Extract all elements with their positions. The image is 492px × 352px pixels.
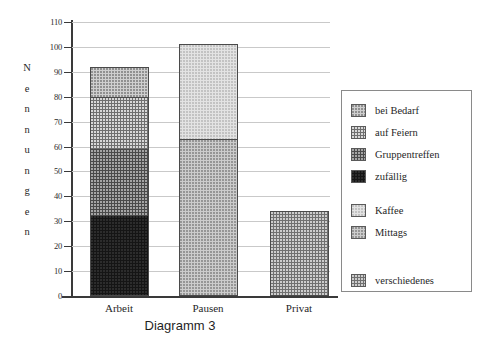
- legend-swatch-kaffee: [351, 204, 366, 217]
- legend-item: zufällig: [351, 168, 407, 184]
- legend-item: verschiedenes: [351, 272, 434, 288]
- bar-segment-gruppentreffen: [90, 149, 149, 215]
- legend-label: bei Bedarf: [375, 105, 419, 116]
- chart-title: Diagramm 3: [0, 318, 360, 333]
- y-tick-label: 60: [54, 142, 62, 152]
- chart-page: Nennungen 1101009080706050403020100 Arbe…: [0, 0, 492, 352]
- y-tick-label: 90: [54, 67, 62, 77]
- legend-label: Gruppentreffen: [375, 149, 440, 160]
- bar-segment-kaffee: [179, 44, 238, 139]
- y-tick-label: 70: [54, 117, 62, 127]
- bar-segment-zuf-llig: [90, 215, 149, 296]
- y-tick-label: 40: [54, 191, 62, 201]
- bar-segment-bei-bedarf: [90, 67, 149, 97]
- legend-label: Kaffee: [375, 205, 403, 216]
- legend-item: Gruppentreffen: [351, 146, 440, 162]
- legend-label: auf Feiern: [375, 127, 418, 138]
- legend-swatch-zuf-llig: [351, 170, 366, 183]
- legend-swatch-bei-bedarf: [351, 104, 366, 117]
- y-tick-label: 100: [50, 42, 62, 52]
- legend-swatch-auf-feiern: [351, 126, 366, 139]
- x-axis-label-pausen: Pausen: [163, 302, 253, 314]
- y-tick-label: 20: [54, 241, 62, 251]
- legend-item: Mittags: [351, 224, 407, 240]
- legend-swatch-verschiedenes: [351, 274, 366, 287]
- legend-item: auf Feiern: [351, 124, 418, 140]
- x-axis-line: [62, 296, 338, 298]
- bar-segment-auf-feiern: [90, 97, 149, 149]
- y-tick-label: 80: [54, 92, 62, 102]
- gridline: [72, 22, 330, 23]
- y-tick-label: 50: [54, 166, 62, 176]
- legend: bei Bedarfauf FeiernGruppentreffenzufäll…: [341, 90, 472, 292]
- y-tick-label: 10: [54, 266, 62, 276]
- legend-item: Kaffee: [351, 202, 403, 218]
- legend-label: zufällig: [375, 171, 407, 182]
- y-tick-label: 30: [54, 216, 62, 226]
- legend-item: bei Bedarf: [351, 102, 419, 118]
- x-axis-label-arbeit: Arbeit: [74, 302, 164, 314]
- y-tick-label: 110: [50, 17, 62, 27]
- plot-area: [72, 22, 330, 296]
- bar-segment-verschiedenes: [270, 211, 329, 296]
- y-axis-ticks: 1101009080706050403020100: [0, 0, 62, 352]
- legend-swatch-gruppentreffen: [351, 148, 366, 161]
- legend-label: verschiedenes: [375, 275, 434, 286]
- bar-pausen: [179, 44, 238, 296]
- bar-arbeit: [90, 67, 149, 296]
- legend-label: Mittags: [375, 227, 407, 238]
- bar-segment-mittags: [179, 139, 238, 296]
- bar-privat: [270, 211, 329, 296]
- legend-swatch-mittags: [351, 226, 366, 239]
- x-axis-label-privat: Privat: [254, 302, 344, 314]
